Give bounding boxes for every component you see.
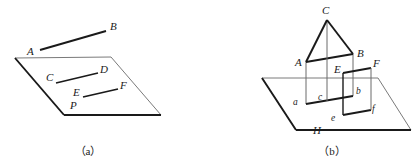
caption-panel-a: （a） (75, 145, 102, 157)
label-a-point-E: E (72, 86, 80, 98)
plane-alpha-a (15, 57, 161, 115)
edge-EF-b (343, 68, 371, 73)
label-b-point-a: a (293, 97, 298, 107)
figure-canvas: A B C D E F P （a） (0, 0, 419, 165)
panel-a: A B C D E F P （a） (15, 20, 161, 157)
label-b-point-B: B (357, 47, 364, 59)
plane-h-b (262, 78, 411, 130)
caption-panel-b: （b） (318, 145, 346, 157)
segment-ef-a (83, 89, 118, 97)
label-a-point-P: P (69, 99, 77, 111)
label-a-point-F: F (119, 79, 127, 91)
label-b-plane-H: H (312, 124, 322, 136)
label-a-point-B: B (110, 20, 117, 32)
label-a-point-D: D (99, 63, 108, 75)
segment-cd-a (56, 73, 98, 83)
edge-CA-b (306, 20, 327, 62)
label-b-point-F: F (372, 57, 380, 69)
label-b-point-E: E (333, 63, 341, 75)
label-a-point-C: C (46, 71, 54, 83)
panel-b: C A B E F b c a e f H （b） (262, 4, 411, 157)
label-b-point-A: A (294, 56, 302, 68)
label-b-point-e: e (331, 113, 335, 123)
label-a-point-A: A (26, 45, 34, 57)
segment-ab-a (40, 31, 106, 50)
plane-edge-left-a (15, 58, 64, 115)
edge-AB-b (306, 54, 353, 62)
label-b-point-f: f (372, 104, 376, 114)
label-b-point-b: b (356, 86, 361, 96)
edge-ef-b (343, 110, 371, 115)
geometry-figure-pair: A B C D E F P （a） (0, 0, 419, 165)
label-b-point-C: C (322, 4, 330, 16)
plane-edge-left-b (262, 78, 296, 130)
edge-CB-b (327, 20, 353, 54)
edge-ab-b (306, 96, 353, 104)
